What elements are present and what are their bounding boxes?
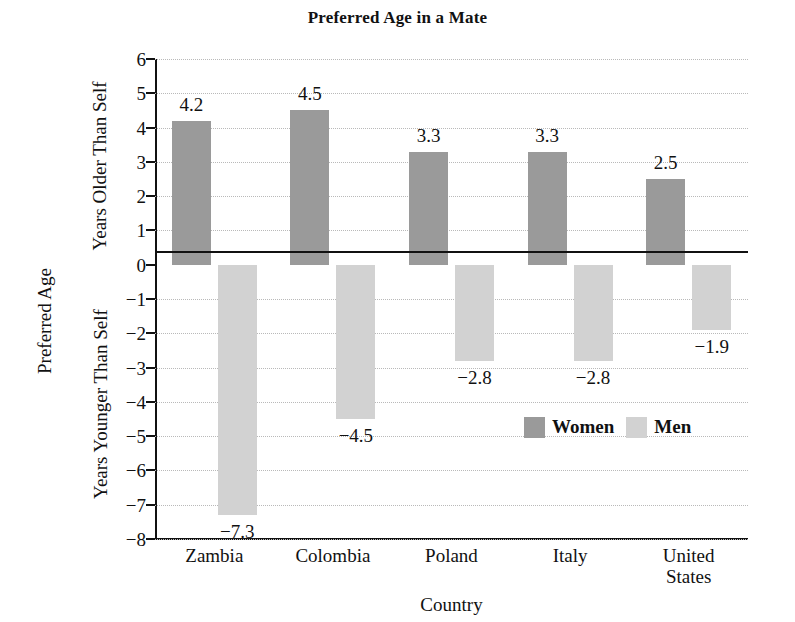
y-axis-tick-label: 6: [106, 50, 146, 69]
y-axis-tick: [146, 469, 155, 471]
y-axis-tick: [146, 435, 155, 437]
y-axis-tick: [146, 504, 155, 506]
bar-value-label-women: 3.3: [508, 126, 587, 145]
bar-value-label-men: −4.5: [314, 426, 397, 445]
bar-value-label-women: 2.5: [626, 153, 705, 172]
gridline: [155, 93, 748, 94]
gridline: [155, 59, 748, 60]
bar-women: [409, 152, 448, 265]
y-axis-tick-label: −3: [106, 358, 146, 377]
zero-baseline: [155, 251, 748, 253]
y-axis-tick-label: 2: [106, 187, 146, 206]
bar-men: [455, 265, 494, 361]
x-axis-tick-label-line: United: [629, 545, 748, 566]
bar-value-label-men: −1.9: [670, 337, 753, 356]
y-axis-tick: [146, 401, 155, 403]
bar-value-label-women: 4.2: [152, 95, 231, 114]
bar-value-label-women: 4.5: [270, 84, 349, 103]
legend-swatch-icon: [524, 417, 545, 438]
bar-women: [172, 121, 211, 265]
x-axis-tick-label-line: Colombia: [274, 545, 393, 566]
x-axis-tick-label: UnitedStates: [629, 545, 748, 588]
y-axis-tick: [146, 161, 155, 163]
bar-men: [574, 265, 613, 361]
bar-women: [528, 152, 567, 265]
bar-women: [290, 110, 329, 264]
y-axis-tick-label: −2: [106, 324, 146, 343]
y-axis-tick-label: 4: [106, 118, 146, 137]
y-axis-tick-label: −4: [106, 392, 146, 411]
x-axis-tick-label: Italy: [511, 545, 630, 566]
y-axis-title-upper: Years Older Than Self: [89, 51, 111, 281]
bar-value-label-women: 3.3: [389, 126, 468, 145]
chart-title: Preferred Age in a Mate: [0, 8, 795, 28]
y-axis-tick-label: −6: [106, 461, 146, 480]
bar-value-label-men: −7.3: [196, 522, 279, 541]
y-axis-tick: [146, 195, 155, 197]
y-axis-tick-label: −1: [106, 290, 146, 309]
x-axis-tick-label: Zambia: [155, 545, 274, 566]
y-axis-tick-labels: 6543210−1−2−3−4−5−6−7−8: [106, 59, 146, 540]
y-axis-tick-label: 1: [106, 221, 146, 240]
y-axis-tick: [146, 367, 155, 369]
bar-value-label-men: −2.8: [433, 368, 516, 387]
bar-men: [692, 265, 731, 330]
chart-figure: Preferred Age in a Mate 6543210−1−2−3−4−…: [0, 0, 795, 622]
y-axis-tick-label: 0: [106, 255, 146, 274]
y-axis-tick-label: −5: [106, 427, 146, 446]
legend-label: Men: [654, 416, 691, 438]
x-axis-tick-label-line: Zambia: [155, 545, 274, 566]
y-axis-tick-label: 5: [106, 84, 146, 103]
bar-men: [336, 265, 375, 419]
legend-item: Women: [524, 416, 614, 438]
y-axis-tick-label: −8: [106, 530, 146, 549]
y-axis-title: Preferred Age: [34, 236, 56, 406]
x-axis-tick-label: Colombia: [274, 545, 393, 566]
legend-label: Women: [552, 416, 614, 438]
chart-legend: WomenMen: [524, 416, 691, 438]
y-axis-tick: [146, 58, 155, 60]
y-axis-tick-label: −7: [106, 495, 146, 514]
y-axis-tick: [146, 264, 155, 266]
x-axis-tick-label-line: States: [629, 566, 748, 587]
plot-area: 4.2−7.34.5−4.53.3−2.83.3−2.82.5−1.9: [155, 59, 748, 539]
legend-item: Men: [626, 416, 691, 438]
y-axis-tick: [146, 229, 155, 231]
y-axis-tick: [146, 298, 155, 300]
y-axis-tick: [146, 538, 155, 540]
x-axis-tick-label-line: Poland: [392, 545, 511, 566]
bar-men: [218, 265, 257, 515]
y-axis-tick: [146, 332, 155, 334]
y-axis-tick: [146, 127, 155, 129]
x-axis-tick-label: Poland: [392, 545, 511, 566]
x-axis-tick-label-line: Italy: [511, 545, 630, 566]
bar-value-label-men: −2.8: [552, 368, 635, 387]
x-axis-title: Country: [155, 594, 748, 616]
y-axis-title-lower: Years Younger Than Self: [90, 277, 112, 532]
y-axis-tick-label: 3: [106, 152, 146, 171]
legend-swatch-icon: [626, 417, 647, 438]
